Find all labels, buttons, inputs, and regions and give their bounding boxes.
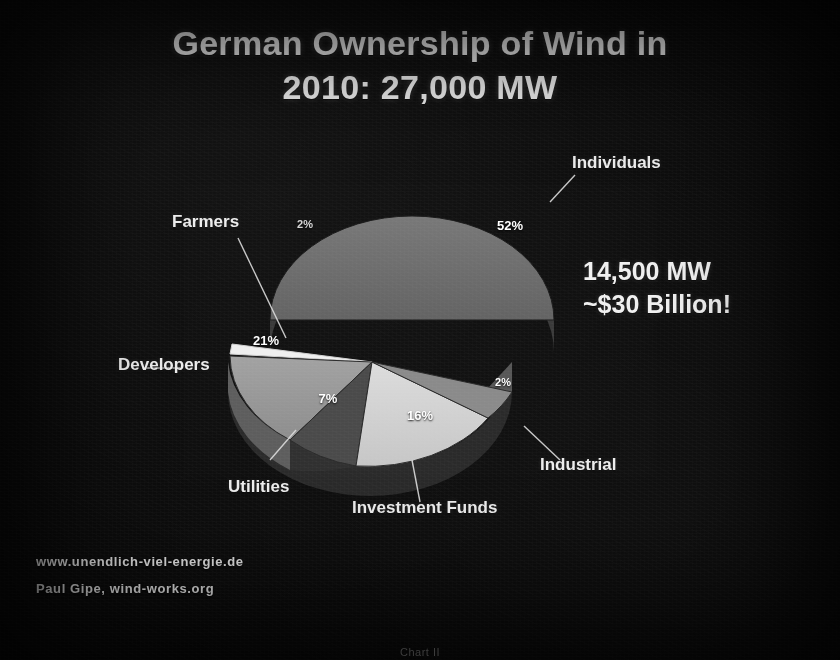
data-label-utilities: 7% [319,391,338,406]
pie-chart-svg [120,130,720,510]
category-label-individuals: Individuals [572,153,661,173]
data-label-farmers: 2% [297,218,313,230]
figure-caption: Chart II [0,646,840,658]
data-label-developers: 21% [253,333,279,348]
credit-line-source: www.unendlich-viel-energie.de [36,548,244,575]
leader-individuals [550,175,575,202]
page-title: German Ownership of Wind in 2010: 27,000… [0,22,840,109]
credits-block: www.unendlich-viel-energie.de Paul Gipe,… [36,548,244,603]
category-label-farmers: Farmers [172,212,239,232]
data-label-industrial: 2% [495,376,511,388]
slide-canvas: German Ownership of Wind in 2010: 27,000… [0,0,840,660]
category-label-developers: Developers [118,355,210,375]
data-label-individuals: 52% [497,218,523,233]
data-label-investment-funds: 16% [407,408,433,423]
pie-chart: 52% 2% 21% 7% 16% 2% [120,130,720,510]
credit-line-author: Paul Gipe, wind-works.org [36,575,244,602]
category-label-utilities: Utilities [228,477,289,497]
category-label-industrial: Industrial [540,455,617,475]
category-label-investment-funds: Investment Funds [352,498,497,518]
